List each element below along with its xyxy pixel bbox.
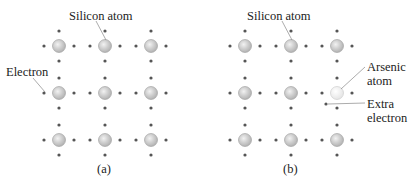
electron-dot — [228, 138, 231, 141]
electron-dot — [243, 76, 246, 79]
electron-dot — [103, 123, 106, 126]
electron-dot — [320, 91, 323, 94]
electron-dot — [258, 44, 261, 47]
lattice-drawing — [0, 0, 412, 186]
electron-dot — [289, 29, 292, 32]
label-electron: Electron — [6, 65, 48, 79]
electron-dot — [103, 59, 106, 62]
electron-dot — [57, 29, 60, 32]
electron-dot — [88, 44, 91, 47]
leader-electron — [33, 78, 45, 92]
electron-dot — [103, 153, 106, 156]
label-silicon-atom-a: Silicon atom — [69, 9, 133, 23]
electron-dot — [103, 76, 106, 79]
label-arsenic-line1: Arsenic — [367, 60, 406, 74]
electron-dot — [72, 44, 75, 47]
electron-dot — [274, 138, 277, 141]
electron-dot — [164, 44, 167, 47]
electron-dot — [149, 59, 152, 62]
electron-dot — [42, 44, 45, 47]
electron-dot — [42, 138, 45, 141]
electron-dot — [134, 91, 137, 94]
silicon-atom — [145, 40, 158, 53]
electron-dot — [320, 138, 323, 141]
silicon-atom — [99, 40, 112, 53]
electron-dot — [335, 76, 338, 79]
electron-dot — [72, 91, 75, 94]
electron-dot — [350, 138, 353, 141]
electron-dot — [118, 44, 121, 47]
electron-dot — [274, 91, 277, 94]
silicon-atom — [331, 134, 344, 147]
electron-dot — [335, 123, 338, 126]
electron-dot — [228, 44, 231, 47]
electron-dot — [88, 91, 91, 94]
caption-b: (b) — [283, 162, 298, 176]
electron-dot — [103, 29, 106, 32]
silicon-atom — [239, 87, 252, 100]
electron-dot — [164, 138, 167, 141]
electron-dot — [289, 123, 292, 126]
electron-dot — [103, 106, 106, 109]
silicon-atom — [285, 40, 298, 53]
electron-dot — [258, 91, 261, 94]
electron-dot — [57, 123, 60, 126]
silicon-atom — [145, 87, 158, 100]
label-extra-line2: electron — [367, 111, 407, 125]
electron-dot — [57, 106, 60, 109]
electron-dot — [335, 106, 338, 109]
electron-dot — [320, 44, 323, 47]
electron-dot — [149, 106, 152, 109]
electron-dot — [134, 44, 137, 47]
label-arsenic-line2: atom — [367, 74, 392, 88]
silicon-atom — [99, 134, 112, 147]
silicon-atom — [53, 87, 66, 100]
label-extra-line1: Extra — [367, 97, 394, 111]
leader-extra-electron — [328, 103, 365, 104]
electron-dot — [243, 123, 246, 126]
electron-dot — [134, 138, 137, 141]
electron-dot — [350, 44, 353, 47]
electron-dot — [335, 153, 338, 156]
electron-dot — [57, 59, 60, 62]
electron-dot — [72, 138, 75, 141]
electron-dot — [149, 29, 152, 32]
diagram-canvas: Silicon atom Electron (a) Silicon atom A… — [0, 0, 412, 186]
silicon-atom — [285, 134, 298, 147]
electron-dot — [304, 91, 307, 94]
silicon-atom — [239, 40, 252, 53]
silicon-atom — [53, 134, 66, 147]
electron-dot — [149, 153, 152, 156]
leader-arsenic — [341, 67, 365, 89]
electron-dot — [289, 106, 292, 109]
silicon-atom — [239, 134, 252, 147]
electron-dot — [324, 102, 327, 105]
electron-dot — [335, 59, 338, 62]
electron-dot — [118, 138, 121, 141]
electron-dot — [243, 153, 246, 156]
electron-dot — [335, 29, 338, 32]
electron-dot — [289, 76, 292, 79]
electron-dot — [243, 59, 246, 62]
silicon-atom — [331, 40, 344, 53]
electron-dot — [57, 153, 60, 156]
electron-dot — [289, 153, 292, 156]
electron-dot — [289, 59, 292, 62]
electron-dot — [350, 91, 353, 94]
electron-dot — [164, 91, 167, 94]
electron-dot — [228, 91, 231, 94]
electron-dot — [243, 29, 246, 32]
electron-dot — [243, 106, 246, 109]
silicon-atom — [285, 87, 298, 100]
electron-dot — [57, 76, 60, 79]
electron-dot — [149, 123, 152, 126]
electron-dot — [258, 138, 261, 141]
electron-dot — [88, 138, 91, 141]
label-silicon-atom-b: Silicon atom — [247, 9, 311, 23]
electron-dot — [149, 76, 152, 79]
electron-dot — [274, 44, 277, 47]
electron-dot — [304, 138, 307, 141]
silicon-atom — [99, 87, 112, 100]
electron-dot — [118, 91, 121, 94]
silicon-atom — [145, 134, 158, 147]
